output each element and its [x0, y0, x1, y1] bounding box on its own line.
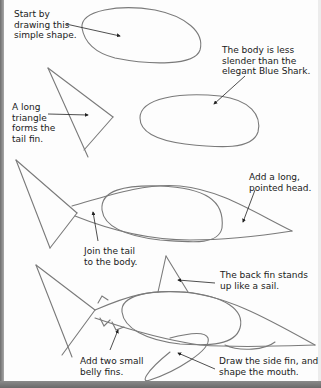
- caption-join-tail: Join the tail to the body.: [84, 246, 137, 267]
- step2-tail-triangle: [48, 68, 113, 157]
- caption-body-less-slender: The body is less slender than the elegan…: [222, 45, 310, 77]
- caption-start-shape: Start by drawing this simple shape.: [14, 9, 77, 41]
- step1-oval-shape: [82, 8, 201, 63]
- step2-body-oval: [140, 95, 259, 147]
- arrow-belly-fins: [110, 330, 118, 350]
- tutorial-page: Start by drawing this simple shape. The …: [0, 0, 321, 388]
- caption-belly-fins: Add two small belly fins.: [80, 356, 144, 377]
- arrow-head: [243, 190, 255, 222]
- caption-side-fin-mouth: Draw the side fin, and shape the mouth.: [219, 356, 318, 377]
- arrow-back-fin: [178, 280, 215, 283]
- arrow-join-tail: [93, 212, 98, 241]
- caption-back-fin: The back fin stands up like a sail.: [220, 270, 308, 291]
- arrow-body: [214, 76, 245, 104]
- caption-pointed-head: Add a long, pointed head.: [249, 172, 311, 193]
- caption-tail-triangle: A long triangle forms the tail fin.: [12, 102, 55, 144]
